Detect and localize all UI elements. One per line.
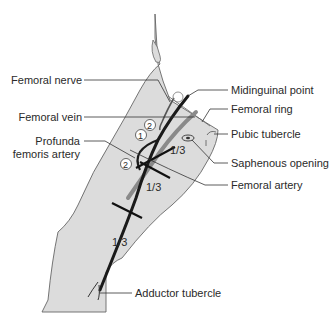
marker-2a-label: 2 [147,121,152,131]
label-femoral-vein: Femoral vein [18,111,82,123]
segment-lower-label: 1/3 [112,236,127,248]
label-profunda-line2: femoris artery [13,148,81,160]
label-adductor-tubercle: Adductor tubercle [135,287,221,299]
label-femoral-ring: Femoral ring [231,103,293,115]
femoral-anatomy-diagram: 2 1 2 1/3 1/3 1/3 Femoral nerve Femoral … [0,0,336,317]
saphenous-opening-dot [186,137,190,139]
marker-circle-top [173,92,183,102]
marker-1-label: 1 [138,131,143,141]
label-pubic-tubercle: Pubic tubercle [231,128,301,140]
leader-femoral-ring [202,109,228,122]
label-femoral-artery: Femoral artery [231,179,303,191]
segment-upper-label: 1/3 [170,144,185,156]
marker-2b-label: 2 [123,160,128,170]
label-femoral-nerve: Femoral nerve [11,74,82,86]
label-midinguinal-point: Midinguinal point [231,84,314,96]
label-saphenous-opening: Saphenous opening [231,157,329,169]
leader-midinguinal [188,90,228,96]
label-profunda-line1: Profunda [35,135,81,147]
segment-middle-label: 1/3 [146,181,161,193]
